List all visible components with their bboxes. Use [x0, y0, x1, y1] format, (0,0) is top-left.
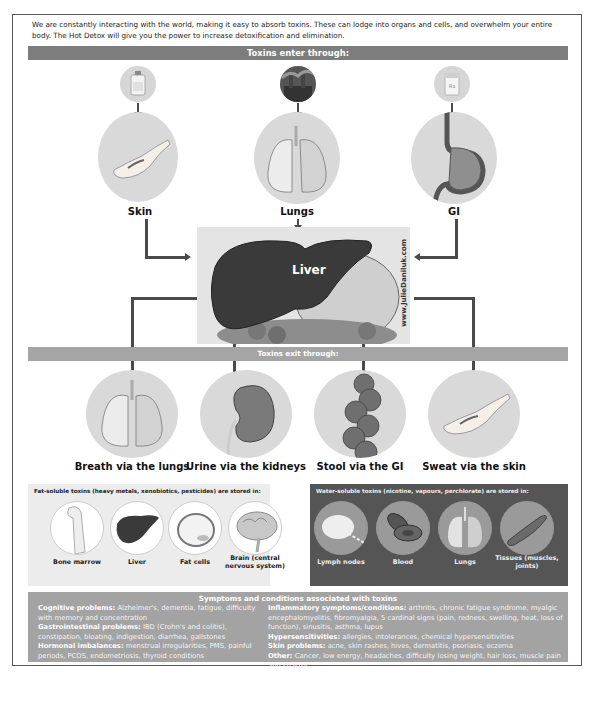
symptom-item: Hormonal imbalances: menstrual irregular… [38, 642, 252, 660]
toxins-enter-header: Toxins enter through: [28, 46, 568, 60]
symptom-text: allergies, intolerances, chemical hypers… [340, 633, 514, 641]
water-store-label: Tissues (muscles, joints) [495, 554, 559, 570]
connector-breath [131, 297, 197, 300]
svg-text:Rx: Rx [449, 83, 455, 89]
symptom-text: Cancer, low energy, headaches, difficult… [268, 652, 561, 670]
lungs-icon [438, 501, 492, 555]
symptom-heading: Gastrointestinal problems: [38, 623, 141, 631]
hand-icon [428, 370, 520, 458]
toxins-exit-header: Toxins exit through: [28, 347, 568, 361]
arrow-left-icon [414, 253, 420, 261]
symptoms-title: Symptoms and conditions associated with … [28, 594, 568, 603]
enter-label-gi: GI [414, 206, 494, 217]
enter-label-lungs: Lungs [257, 206, 337, 217]
symptoms-right-column: Inflammatory symptoms/conditions: arthri… [268, 604, 564, 671]
fat-cell-icon [168, 501, 222, 555]
water-store-label: Lungs [433, 558, 497, 566]
connector-breath [131, 297, 134, 379]
liver-icon [110, 501, 164, 555]
symptom-item: Inflammatory symptoms/conditions: arthri… [268, 604, 563, 631]
intro-text: We are constantly interacting with the w… [32, 20, 572, 41]
arrow-right-icon [185, 253, 191, 261]
stomach-icon [411, 112, 497, 204]
fat-soluble-title: Fat-soluble toxins (heavy metals, xenobi… [34, 488, 261, 494]
enter-label-skin: Skin [100, 206, 180, 217]
fat-store-label: Liver [105, 558, 169, 566]
fat-store-label: Brain (central nervous system) [223, 554, 287, 570]
symptom-item: Gastrointestinal problems: IBD (Crohn's … [38, 623, 227, 641]
exit-label-stool: Stool via the GI [295, 461, 425, 472]
fat-soluble-panel: Fat-soluble toxins (heavy metals, xenobi… [28, 484, 270, 586]
kidney-icon [200, 370, 292, 458]
water-store-label: Blood [371, 558, 435, 566]
symptom-item: Cognitive problems: Alzheimer's, dementi… [38, 604, 255, 622]
symptoms-left-column: Cognitive problems: Alzheimer's, dementi… [38, 604, 263, 662]
muscle-icon [500, 501, 554, 555]
exit-label-urine: Urine via the kidneys [181, 461, 311, 472]
symptom-heading: Cognitive problems: [38, 604, 115, 612]
brain-icon [228, 501, 282, 555]
factory-smoke-icon [280, 66, 316, 102]
colon-icon [314, 370, 406, 458]
connector-skin [145, 219, 148, 259]
exit-label-breath: Breath via the lungs [67, 461, 197, 472]
symptom-heading: Hormonal imbalances: [38, 642, 124, 650]
connector-sweat [414, 297, 475, 300]
water-soluble-title: Water-soluble toxins (nicotine, vapours,… [316, 488, 529, 494]
lungs-icon [254, 112, 340, 204]
connector-skin [145, 256, 185, 259]
lymph-node-icon [314, 501, 368, 555]
hand-icon [98, 112, 178, 202]
symptom-item: Hypersensitivities: allergies, intoleran… [268, 633, 514, 641]
water-soluble-panel: Water-soluble toxins (nicotine, vapours,… [310, 484, 568, 586]
symptom-text: acne, skin rashes, hives, dermatitis, ps… [326, 642, 513, 650]
symptom-heading: Hypersensitivities: [268, 633, 340, 641]
symptom-item: Skin problems: acne, skin rashes, hives,… [268, 642, 513, 650]
blood-cell-icon [376, 501, 430, 555]
symptoms-panel: Symptoms and conditions associated with … [28, 592, 568, 662]
fat-store-label: Fat cells [163, 558, 227, 566]
liver-label: Liver [292, 263, 326, 277]
water-store-label: Lymph nodes [309, 558, 373, 566]
connector-gi [420, 256, 458, 259]
lungs-icon [86, 370, 178, 458]
bone-icon [50, 501, 104, 555]
symptom-heading: Inflammatory symptoms/conditions: [268, 604, 406, 612]
symptom-heading: Other: [268, 652, 293, 660]
liver-illustration: Liver www.JulieDaniluk.com [197, 227, 410, 344]
symptom-item: Other: Cancer, low energy, headaches, di… [268, 652, 561, 670]
bottle-icon [120, 66, 156, 102]
symptom-heading: Skin problems: [268, 642, 326, 650]
fat-store-label: Bone marrow [45, 558, 109, 566]
connector-gi [455, 219, 458, 259]
exit-label-sweat: Sweat via the skin [409, 461, 539, 472]
connector-sweat [472, 297, 475, 379]
pill-bottle-icon: Rx [434, 66, 470, 102]
watermark-url: www.JulieDaniluk.com [400, 239, 408, 327]
